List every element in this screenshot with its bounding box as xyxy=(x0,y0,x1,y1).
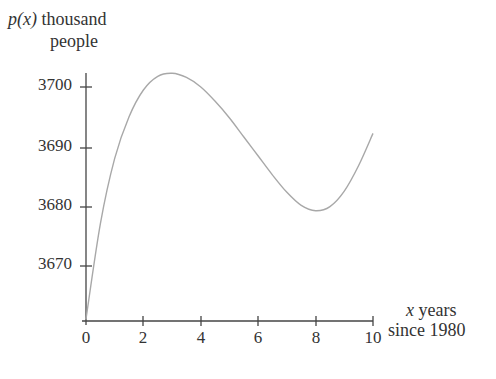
curve-p-of-x xyxy=(86,73,373,319)
axes xyxy=(80,73,373,326)
chart-plot xyxy=(0,0,496,379)
